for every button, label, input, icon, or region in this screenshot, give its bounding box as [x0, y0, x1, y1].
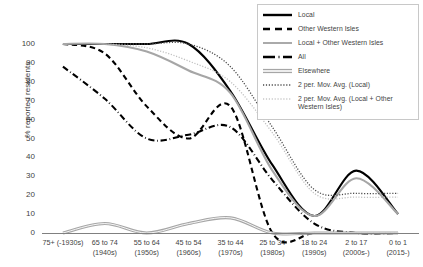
dotted-light-line-key — [261, 92, 295, 106]
chart-container: % reported residents 1009080706050403020… — [0, 0, 423, 267]
legend-item[interactable]: 2 per. Mov. Avg. (Local) — [258, 78, 418, 92]
legend-item-label: All — [298, 50, 306, 61]
legend-item-label: Local — [298, 8, 315, 19]
double-gray-line-key — [261, 64, 295, 78]
legend-item-label: Other Western Isles — [298, 22, 359, 33]
chart-legend: LocalOther Western IslesLocal + Other We… — [257, 4, 419, 120]
legend-item-label: 2 per. Mov. Avg. (Local + Other Western … — [298, 92, 416, 111]
dashed-black-line-key — [261, 22, 295, 36]
series-line — [63, 218, 398, 235]
dashdot-black-line-key — [261, 50, 295, 64]
legend-item-label: Local + Other Western Isles — [298, 36, 383, 47]
legend-item-label: Elsewhere — [298, 64, 330, 75]
legend-item[interactable]: All — [258, 50, 418, 64]
legend-item-label: 2 per. Mov. Avg. (Local) — [298, 78, 370, 89]
dotted-dark-line-key — [261, 78, 295, 92]
legend-item[interactable]: Elsewhere — [258, 64, 418, 78]
solid-gray-line-key — [261, 36, 295, 50]
legend-item[interactable]: Local + Other Western Isles — [258, 36, 418, 50]
legend-item[interactable]: 2 per. Mov. Avg. (Local + Other Western … — [258, 92, 418, 114]
legend-item[interactable]: Local — [258, 8, 418, 22]
solid-black-line-key — [261, 8, 295, 22]
legend-item[interactable]: Other Western Isles — [258, 22, 418, 36]
